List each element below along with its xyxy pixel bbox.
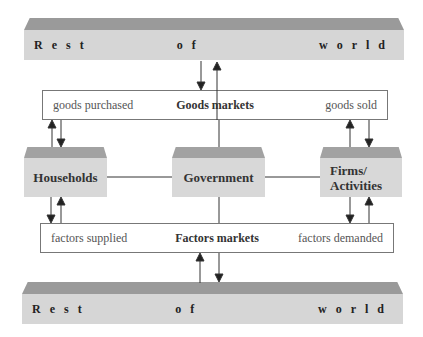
connector-arrows [0, 0, 423, 337]
arrow-up-icon [213, 62, 221, 70]
arrow-down-icon [197, 82, 205, 90]
